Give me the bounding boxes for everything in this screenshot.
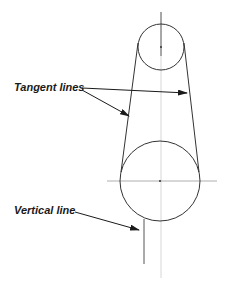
right-tangent-line (184, 43, 199, 172)
tangent-arrow-right (82, 88, 187, 93)
large-circle-center (159, 180, 161, 182)
tangent-arrow-left (82, 90, 129, 116)
vertical-line-arrow (75, 212, 139, 230)
diagram-canvas (0, 0, 227, 286)
small-circle-center (160, 46, 162, 48)
vertical-line-label: Vertical line (14, 205, 75, 216)
tangent-lines-label: Tangent lines (14, 82, 85, 93)
left-tangent-line (121, 43, 138, 172)
